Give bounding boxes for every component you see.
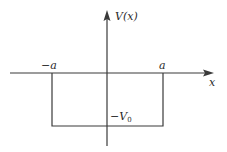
well-depth-label: −V0 bbox=[110, 111, 132, 124]
x-axis-label: x bbox=[209, 77, 215, 88]
y-axis-label: V(x) bbox=[115, 11, 138, 22]
well-depth-text: −V bbox=[110, 110, 127, 123]
potential-well-diagram bbox=[0, 0, 227, 152]
well-depth-subscript: 0 bbox=[127, 116, 131, 124]
left-edge-label: −a bbox=[41, 60, 57, 71]
right-edge-label: a bbox=[159, 60, 166, 71]
